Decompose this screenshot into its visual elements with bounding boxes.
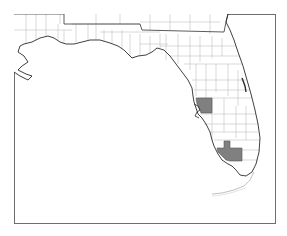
florida-keys-outline — [212, 188, 246, 196]
florida-county-map — [0, 0, 287, 236]
